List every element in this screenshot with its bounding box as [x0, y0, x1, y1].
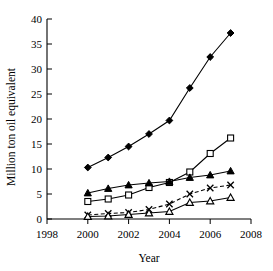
series-2-open-square [85, 135, 234, 205]
series-line-1 [88, 33, 231, 168]
y-axis [47, 19, 52, 219]
y-tick-label-40: 40 [31, 13, 43, 25]
x-tick-label-2002: 2002 [118, 228, 140, 240]
y-tick-labels: 40 35 30 25 20 15 10 5 0 [31, 13, 43, 225]
marker-filled-diamond [166, 117, 173, 124]
marker-open-square [126, 192, 132, 198]
marker-filled-diamond [186, 85, 193, 92]
series-1-filled-diamond [84, 30, 234, 171]
x-tick-marks [47, 219, 251, 224]
y-tick-label-0: 0 [37, 213, 43, 225]
x-axis-title: Year [138, 252, 159, 264]
series-line-2 [88, 138, 231, 202]
x-tick-label-2006: 2006 [199, 228, 222, 240]
marker-filled-triangle [227, 167, 234, 173]
marker-open-square [207, 151, 213, 157]
marker-open-square [105, 196, 111, 202]
marker-filled-diamond [125, 143, 132, 150]
marker-open-square [228, 135, 234, 141]
marker-filled-diamond [146, 131, 153, 138]
series-3-filled-triangle [84, 167, 234, 195]
x-axis [47, 219, 251, 224]
chart-canvas: Million ton oil equivalent 40 35 30 25 2… [0, 0, 273, 271]
marker-open-triangle [227, 194, 234, 200]
y-tick-label-15: 15 [31, 138, 43, 150]
x-tick-label-1998: 1998 [36, 228, 59, 240]
x-tick-label-2000: 2000 [77, 228, 100, 240]
x-tick-labels: 1998 2000 2002 2004 2006 2008 [36, 228, 263, 240]
line-chart: Million ton oil equivalent 40 35 30 25 2… [0, 0, 273, 271]
y-tick-label-5: 5 [37, 188, 43, 200]
marker-cross-x [166, 201, 172, 207]
x-tick-label-2004: 2004 [158, 228, 181, 240]
y-tick-marks [47, 19, 52, 219]
y-axis-title: Million ton oil equivalent [5, 67, 18, 186]
marker-filled-diamond [84, 164, 91, 171]
y-tick-label-10: 10 [31, 163, 43, 175]
y-tick-label-20: 20 [31, 113, 43, 125]
marker-filled-diamond [105, 154, 112, 161]
marker-cross-x [207, 185, 213, 191]
marker-cross-x [187, 191, 193, 197]
y-tick-label-25: 25 [31, 88, 43, 100]
y-axis-title-group: Million ton oil equivalent [5, 67, 18, 186]
plot-area [84, 30, 234, 220]
y-tick-label-30: 30 [31, 63, 43, 75]
marker-open-square [85, 199, 91, 205]
x-tick-label-2008: 2008 [240, 228, 263, 240]
y-tick-label-35: 35 [31, 38, 43, 50]
